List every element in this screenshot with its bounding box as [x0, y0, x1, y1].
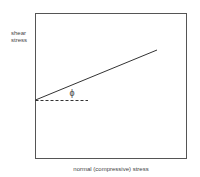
- plot-frame: [36, 14, 187, 159]
- y-axis-label-line1: shear: [11, 30, 26, 36]
- failure-envelope-line: [36, 50, 158, 100]
- friction-angle-label: ϕ: [69, 88, 74, 98]
- diagram-canvas: ϕ shear stress normal (compressive) stre…: [0, 0, 200, 177]
- x-axis-label: normal (compressive) stress: [73, 166, 148, 172]
- y-axis-label-line2: stress: [11, 37, 27, 43]
